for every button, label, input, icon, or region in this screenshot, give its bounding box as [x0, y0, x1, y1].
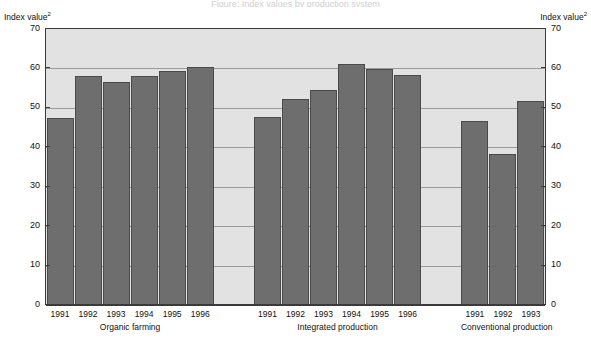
- xtick-label: 1991: [46, 309, 74, 319]
- group-label: Conventional production: [461, 322, 545, 332]
- ytick-right-10: 10: [551, 260, 589, 269]
- ytick-mark-left-50: [46, 107, 50, 108]
- xtick-label: 1993: [310, 309, 338, 319]
- ytick-right-20: 20: [551, 221, 589, 230]
- xtick-label: 1993: [102, 309, 130, 319]
- ytick-left-60: 60: [2, 63, 40, 72]
- right-axis-caption: Index value2: [540, 9, 587, 22]
- group-label: Organic farming: [46, 322, 214, 332]
- xtick-label: 1996: [394, 309, 422, 319]
- xtick-label: 1993: [517, 309, 545, 319]
- ytick-mark-right-50: [541, 107, 545, 108]
- xtick-label: 1992: [281, 309, 309, 319]
- group-label: Integrated production: [253, 322, 421, 332]
- bar: [338, 64, 365, 305]
- ytick-mark-right-40: [541, 146, 545, 147]
- xtick-label: 1992: [74, 309, 102, 319]
- right-axis-caption-text: Index value: [540, 12, 583, 22]
- left-axis-caption-footnote: 2: [47, 11, 50, 17]
- xtick-label: 1995: [158, 309, 186, 319]
- ytick-mark-left-60: [46, 67, 50, 68]
- xtick-label: 1991: [253, 309, 281, 319]
- ytick-right-0: 0: [551, 300, 589, 309]
- ytick-mark-left-40: [46, 146, 50, 147]
- ytick-left-10: 10: [2, 260, 40, 269]
- bar: [461, 121, 488, 305]
- ytick-left-0: 0: [2, 300, 40, 309]
- ytick-mark-right-60: [541, 67, 545, 68]
- ytick-mark-left-20: [46, 225, 50, 226]
- bar: [394, 75, 421, 305]
- bar: [282, 99, 309, 305]
- ytick-right-40: 40: [551, 142, 589, 151]
- xtick-label: 1991: [461, 309, 489, 319]
- right-axis-caption-footnote: 2: [584, 11, 587, 17]
- xtick-label: 1994: [130, 309, 158, 319]
- ytick-mark-right-20: [541, 225, 545, 226]
- ytick-mark-left-30: [46, 186, 50, 187]
- ytick-left-30: 30: [2, 181, 40, 190]
- ytick-left-40: 40: [2, 142, 40, 151]
- xtick-label: 1995: [366, 309, 394, 319]
- ytick-left-70: 70: [2, 24, 40, 33]
- xtick-label: 1992: [489, 309, 517, 319]
- left-axis-caption-text: Index value: [4, 12, 47, 22]
- plot-bottom-border: [46, 304, 545, 306]
- ytick-right-50: 50: [551, 102, 589, 111]
- bar: [187, 67, 214, 305]
- xtick-label: 1996: [186, 309, 214, 319]
- bar: [75, 76, 102, 305]
- ytick-mark-left-10: [46, 265, 50, 266]
- ytick-mark-right-30: [541, 186, 545, 187]
- bar: [517, 101, 544, 305]
- chart-title-sliver: Figure: Index values by production syste…: [0, 0, 591, 7]
- ytick-left-20: 20: [2, 221, 40, 230]
- ytick-right-30: 30: [551, 181, 589, 190]
- ytick-mark-right-10: [541, 265, 545, 266]
- ytick-right-70: 70: [551, 24, 589, 33]
- xtick-label: 1994: [338, 309, 366, 319]
- plot-left-border: [45, 28, 46, 305]
- bar: [103, 82, 130, 305]
- bar: [310, 90, 337, 305]
- bar: [254, 117, 281, 305]
- plot-area: [46, 28, 545, 305]
- bar: [366, 69, 393, 305]
- bar: [131, 76, 158, 305]
- gridline-60: [46, 68, 545, 69]
- chart-root: Figure: Index values by production syste…: [0, 0, 591, 339]
- bar: [489, 154, 516, 305]
- plot-right-border: [545, 28, 546, 305]
- ytick-left-50: 50: [2, 102, 40, 111]
- left-axis-caption: Index value2: [4, 9, 51, 22]
- bar: [159, 71, 186, 305]
- ytick-right-60: 60: [551, 63, 589, 72]
- bar: [47, 118, 74, 305]
